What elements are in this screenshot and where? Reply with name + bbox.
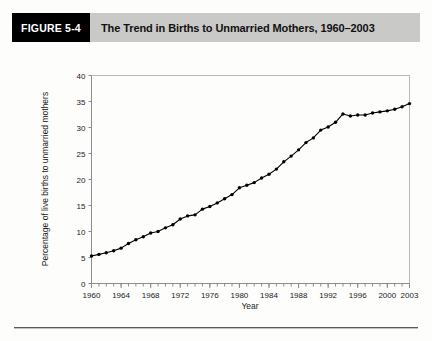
data-point — [164, 226, 167, 229]
series-line-births-unmarried — [92, 104, 410, 256]
x-tick-label: 1960 — [83, 291, 101, 300]
data-point — [312, 136, 315, 139]
data-point — [386, 109, 389, 112]
x-tick-label: 1964 — [112, 291, 130, 300]
data-point — [260, 176, 263, 179]
data-point — [238, 186, 241, 189]
data-point — [341, 112, 344, 115]
data-point — [393, 108, 396, 111]
plot-frame — [92, 76, 410, 284]
data-point — [282, 160, 285, 163]
figure-title: The Trend in Births to Unmarried Mothers… — [90, 13, 420, 42]
y-axis-title: Percentage of live births to unmarried m… — [40, 92, 50, 266]
data-point — [349, 114, 352, 117]
x-tick-label: 1992 — [319, 291, 337, 300]
y-tick-label: 30 — [77, 124, 86, 133]
x-axis-ticks — [92, 284, 410, 289]
x-tick-label: 1996 — [349, 291, 367, 300]
data-point — [289, 154, 292, 157]
data-point — [97, 253, 100, 256]
data-point — [326, 125, 329, 128]
data-point — [253, 181, 256, 184]
data-point — [193, 213, 196, 216]
data-point — [275, 167, 278, 170]
x-axis-tick-labels: 1960196419681972197619801984198819921996… — [83, 291, 419, 300]
y-tick-label: 20 — [77, 176, 86, 185]
x-axis-title: Year — [241, 301, 258, 311]
data-point — [171, 223, 174, 226]
data-point — [179, 217, 182, 220]
series-markers — [90, 102, 411, 258]
y-axis-tick-labels: 0510152025303540 — [77, 72, 86, 289]
data-point — [105, 251, 108, 254]
x-tick-label: 2000 — [378, 291, 396, 300]
figure-number-tag: FIGURE 5-4 — [12, 13, 90, 42]
data-point — [297, 148, 300, 151]
bottom-divider-shadow — [14, 328, 418, 329]
x-tick-label: 1988 — [290, 291, 308, 300]
data-point — [304, 141, 307, 144]
data-point — [267, 173, 270, 176]
data-point — [216, 201, 219, 204]
data-point — [112, 249, 115, 252]
data-point — [119, 246, 122, 249]
figure-banner: FIGURE 5-4 The Trend in Births to Unmarr… — [12, 13, 420, 42]
data-point — [408, 102, 411, 105]
data-point — [90, 254, 93, 257]
data-point — [156, 230, 159, 233]
data-point — [334, 121, 337, 124]
data-point — [363, 113, 366, 116]
data-point — [371, 111, 374, 114]
data-point — [134, 238, 137, 241]
y-tick-label: 25 — [77, 150, 86, 159]
data-point — [400, 105, 403, 108]
data-point — [230, 193, 233, 196]
figure-page: FIGURE 5-4 The Trend in Births to Unmarr… — [0, 0, 432, 341]
x-tick-label: 1980 — [231, 291, 249, 300]
data-point — [208, 205, 211, 208]
data-point — [245, 184, 248, 187]
chart-container: 0510152025303540 19601964196819721976198… — [0, 52, 432, 314]
y-tick-label: 15 — [77, 202, 86, 211]
line-chart: 0510152025303540 19601964196819721976198… — [0, 52, 432, 314]
y-tick-label: 10 — [77, 228, 86, 237]
x-tick-label: 1984 — [260, 291, 278, 300]
y-tick-label: 0 — [81, 280, 86, 289]
data-point — [149, 231, 152, 234]
data-point — [186, 214, 189, 217]
x-tick-label: 1976 — [201, 291, 219, 300]
x-tick-label: 1968 — [142, 291, 160, 300]
data-point — [319, 128, 322, 131]
data-point — [127, 242, 130, 245]
x-tick-label: 2003 — [401, 291, 419, 300]
y-tick-label: 40 — [77, 72, 86, 81]
data-point — [201, 207, 204, 210]
y-tick-label: 5 — [81, 254, 86, 263]
data-point — [142, 235, 145, 238]
data-point — [378, 110, 381, 113]
x-tick-label: 1972 — [171, 291, 189, 300]
data-point — [223, 197, 226, 200]
data-point — [356, 113, 359, 116]
y-tick-label: 35 — [77, 98, 86, 107]
